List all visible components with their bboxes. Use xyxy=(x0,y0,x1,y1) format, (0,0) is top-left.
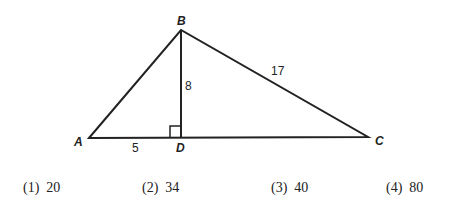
right-angle-marker xyxy=(170,126,181,137)
length-bc: 17 xyxy=(271,64,285,78)
vertex-label-d: D xyxy=(176,141,185,155)
choice-2-value: 34 xyxy=(165,180,179,195)
choice-4-value: 80 xyxy=(409,180,423,195)
choice-1-label: (1) xyxy=(23,180,39,195)
choice-3-value: 40 xyxy=(294,180,308,195)
choice-2-label: (2) xyxy=(142,180,158,195)
vertex-label-a: A xyxy=(73,135,83,149)
choice-3[interactable]: (3) 40 xyxy=(271,180,308,196)
vertex-label-b: B xyxy=(177,14,186,28)
length-bd: 8 xyxy=(185,79,192,93)
choice-4[interactable]: (4) 80 xyxy=(386,180,423,196)
vertex-label-c: C xyxy=(375,134,384,148)
length-ad: 5 xyxy=(132,141,139,155)
choice-1[interactable]: (1) 20 xyxy=(23,180,60,196)
triangle-abc xyxy=(89,30,368,138)
choice-4-label: (4) xyxy=(386,180,402,195)
choice-1-value: 20 xyxy=(46,180,60,195)
choice-3-label: (3) xyxy=(271,180,287,195)
choice-2[interactable]: (2) 34 xyxy=(142,180,179,196)
triangle-diagram: B A C D 5 8 17 xyxy=(0,0,453,203)
